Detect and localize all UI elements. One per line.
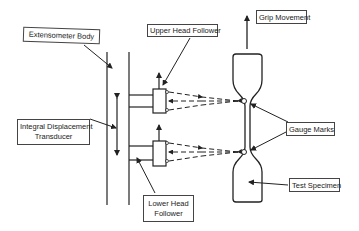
leader-transducer [90, 119, 116, 128]
label-transducer-line1: Integral Displacement [20, 122, 87, 132]
label-lower-head-line2: Follower [146, 209, 191, 219]
label-gauge-marks: Gauge Marks [286, 122, 335, 136]
upper-optical-beams [169, 92, 238, 110]
gauge-mark-lower [242, 150, 247, 155]
upper-head-follower [153, 89, 166, 113]
test-specimen-shape [233, 54, 262, 202]
leader-upper-head-follower [163, 38, 190, 85]
label-transducer-line2: Transducer [20, 132, 87, 142]
leader-lower-head-follower [137, 158, 155, 193]
gauge-mark-upper [242, 99, 247, 104]
label-extensometer-body: Extensometer Body [23, 27, 100, 45]
lower-head-follower [153, 141, 166, 166]
leader-gauge-marks-upper [251, 104, 288, 122]
leader-gauge-marks-lower [251, 131, 288, 150]
leader-extensometer-body [84, 45, 112, 68]
label-lower-head-follower: Lower Head Follower [143, 195, 194, 222]
lower-optical-beams [169, 143, 238, 161]
label-grip-movement: Grip Movement [256, 10, 307, 24]
label-upper-head-follower: Upper Head Follower [147, 24, 218, 37]
label-lower-head-line1: Lower Head [146, 199, 191, 209]
label-integral-displacement-transducer: Integral Displacement Transducer [17, 119, 90, 145]
label-test-specimen: Test Specimen [289, 178, 340, 192]
